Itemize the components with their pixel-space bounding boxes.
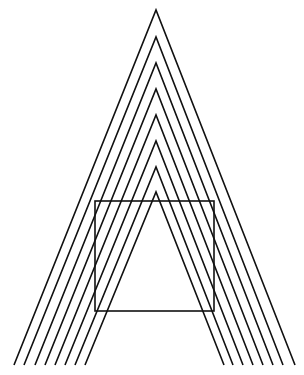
chevron-8	[85, 192, 224, 365]
illusion-figure	[0, 0, 304, 375]
illusion-drawing	[0, 0, 304, 375]
chevron-6	[65, 141, 243, 365]
chevron-3	[35, 63, 273, 365]
